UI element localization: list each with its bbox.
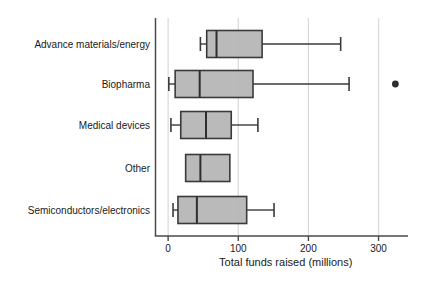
box-biopharma <box>175 71 253 98</box>
x-tick-label-100: 100 <box>230 243 247 254</box>
box-semiconductors-electronics <box>178 197 247 224</box>
category-label-other: Other <box>125 163 151 174</box>
box-advance-materials-energy <box>207 31 262 58</box>
category-label-advance-materials-energy: Advance materials/energy <box>34 39 150 50</box>
outlier-biopharma-0 <box>392 81 399 88</box>
x-axis-title: Total funds raised (millions) <box>219 256 352 268</box>
category-label-medical-devices: Medical devices <box>79 120 150 131</box>
boxplot-figure: Advance materials/energyBiopharmaMedical… <box>0 0 422 281</box>
category-label-biopharma: Biopharma <box>102 79 151 90</box>
x-tick-label-200: 200 <box>300 243 317 254</box>
x-tick-label-0: 0 <box>165 243 171 254</box>
boxplot-chart: Advance materials/energyBiopharmaMedical… <box>0 0 422 281</box>
x-tick-label-300: 300 <box>370 243 387 254</box>
box-other <box>186 155 230 182</box>
category-label-semiconductors-electronics: Semiconductors/electronics <box>28 205 150 216</box>
